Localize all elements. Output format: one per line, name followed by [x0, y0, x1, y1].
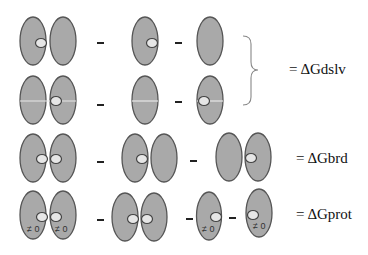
term-pair-linked-bead-right-domain	[20, 76, 76, 124]
ligand-bead-icon	[248, 211, 259, 220]
nonzero-label: ≠ 0	[55, 224, 67, 234]
label-delta-g-dslv: = ΔGdslv	[289, 61, 346, 78]
ligand-bead-icon	[246, 154, 257, 163]
row-3	[20, 133, 271, 182]
term-single-bead-left-nonzero: ≠ 0	[246, 189, 272, 237]
term-pair-bead-right-domain	[216, 133, 271, 181]
label-delta-g-brd: = ΔGbrd	[296, 150, 348, 167]
curly-brace-icon	[243, 36, 258, 105]
ligand-bead-icon	[37, 213, 48, 222]
ligand-bead-icon	[37, 155, 48, 164]
ligand-bead-icon	[51, 213, 62, 222]
row-2	[20, 76, 223, 124]
ligand-bead-icon	[147, 39, 158, 48]
nonzero-label: ≠ 0	[202, 224, 214, 234]
term-pair-two-beads-nonzero: ≠ 0 ≠ 0	[20, 191, 76, 239]
term-single-linked-bead-left	[197, 76, 223, 124]
nonzero-label: ≠ 0	[27, 224, 39, 234]
label-delta-g-prot: = ΔGprot	[296, 206, 352, 223]
ligand-bead-icon	[51, 97, 62, 106]
ligand-bead-icon	[137, 155, 148, 164]
ligand-bead-icon	[199, 97, 210, 106]
term-single-bead-right-nonzero: ≠ 0	[197, 192, 222, 240]
protein-domain-ellipse	[50, 17, 76, 65]
thermodynamic-cycle-diagram: .dom { fill: #a9a9a9; stroke: #555; stro…	[0, 0, 368, 255]
nonzero-label: ≠ 0	[253, 221, 265, 231]
protein-domain-ellipse	[216, 133, 242, 181]
term-pair-two-beads	[20, 134, 76, 182]
ligand-bead-icon	[128, 215, 139, 224]
term-pair-two-beads	[112, 193, 167, 241]
term-single-linked-empty	[132, 76, 158, 124]
term-pair-bead-left-domain	[122, 134, 177, 182]
protein-domain-ellipse	[132, 76, 158, 124]
protein-domain-ellipse	[151, 134, 177, 182]
ligand-bead-icon	[36, 39, 47, 48]
term-single-bead-right	[132, 17, 158, 65]
ligand-bead-icon	[142, 215, 153, 224]
ligand-bead-icon	[51, 155, 62, 164]
protein-domain-ellipse	[197, 17, 223, 65]
ligand-bead-icon	[211, 213, 222, 222]
term-pair-bead-left-domain	[20, 17, 76, 65]
row-4: ≠ 0 ≠ 0 ≠ 0 ≠ 0	[20, 189, 272, 241]
protein-domain-ellipse	[20, 76, 46, 124]
term-single-empty	[197, 17, 223, 65]
row-1	[20, 17, 223, 65]
